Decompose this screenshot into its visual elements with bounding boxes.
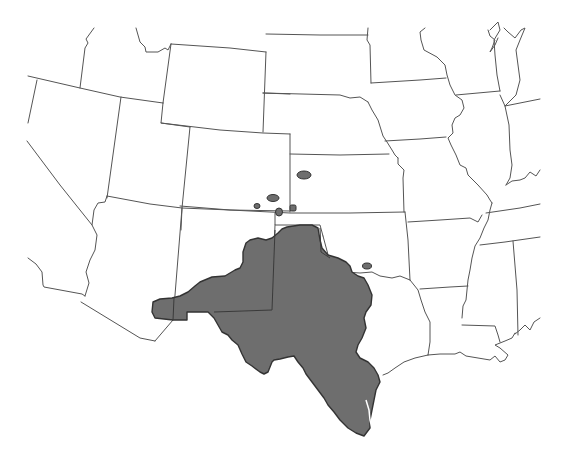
disjunct-colorado-3 [276, 208, 283, 216]
border-sd-ne [263, 93, 368, 102]
border-ks-mo [398, 158, 404, 212]
border-or-nv [28, 76, 163, 103]
border-la-tx [410, 280, 430, 355]
coast-alabama [515, 318, 540, 334]
border-nd-sd [266, 34, 368, 35]
border-ar-la [420, 286, 468, 289]
border-nv-ut [107, 97, 121, 198]
border-id-wy [163, 44, 171, 103]
border-ca-south [28, 258, 85, 296]
border-nm-mexico [155, 320, 173, 341]
coast-louisiana [428, 333, 515, 362]
border-ky-tn [486, 204, 540, 213]
disjunct-kansas-border [290, 205, 296, 211]
border-id-mt [136, 28, 171, 52]
border-wi-il [456, 91, 500, 95]
border-ms-la [462, 325, 500, 342]
border-ca-nv-north [28, 80, 37, 123]
border-wy-north [171, 44, 266, 52]
lake-michigan-west [490, 22, 500, 91]
lake-michigan-east [500, 28, 525, 106]
border-mississippi-north [420, 28, 492, 203]
border-wy-co [161, 123, 290, 134]
disjunct-kansas [297, 171, 311, 179]
range-map [0, 0, 569, 460]
disjunct-oklahoma [363, 263, 372, 269]
border-ms-al [513, 241, 518, 335]
border-ca-nv-diag [27, 141, 92, 225]
border-ia-mo [385, 137, 446, 141]
border-az-mexico [81, 302, 155, 341]
disjunct-colorado-1 [267, 195, 279, 202]
green-bay [488, 30, 498, 52]
border-id-west [80, 28, 94, 88]
border-mississippi-south [462, 203, 492, 318]
border-mn-ia [371, 78, 446, 83]
border-tn-ms-al [480, 237, 540, 245]
disjunct-colorado-2 [254, 204, 260, 209]
border-wy-east [263, 52, 266, 132]
border-ne-ia [368, 102, 398, 158]
range-main [152, 225, 380, 436]
border-sd-mn [367, 28, 371, 83]
border-az-west [85, 196, 107, 296]
border-ut-az [107, 196, 290, 211]
border-il-in [505, 106, 512, 185]
border-ne-ks [290, 154, 389, 155]
border-mo-ar [408, 215, 482, 222]
coast-texas-upper [383, 355, 428, 375]
border-ut-co [181, 127, 190, 230]
